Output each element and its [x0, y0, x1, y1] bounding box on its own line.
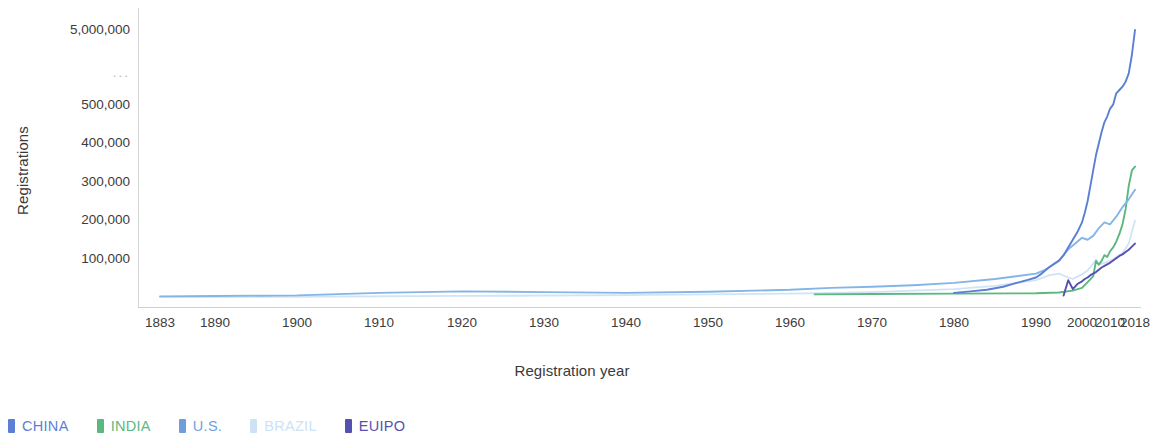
x-tick-label: 1900: [282, 316, 312, 330]
x-tick-label: 1960: [775, 316, 805, 330]
legend-item-china[interactable]: CHINA: [8, 418, 69, 434]
x-tick-label: 1940: [611, 316, 641, 330]
legend-label: INDIA: [111, 418, 151, 434]
series-line-china: [954, 30, 1135, 293]
x-tick-label: 1910: [364, 316, 394, 330]
legend-label: BRAZIL: [264, 418, 317, 434]
y-tick-label: 200,000: [30, 213, 130, 227]
x-tick-label: 1883: [145, 316, 175, 330]
x-tick-label: 1890: [200, 316, 230, 330]
legend-item-euipo[interactable]: EUIPO: [345, 418, 406, 434]
x-tick-label: 1930: [529, 316, 559, 330]
x-tick-label: 2000: [1067, 316, 1097, 330]
legend-label: EUIPO: [359, 418, 406, 434]
legend-label: CHINA: [22, 418, 69, 434]
x-tick-label: 1980: [939, 316, 969, 330]
legend-label: U.S.: [193, 418, 222, 434]
legend-swatch-icon: [179, 419, 186, 433]
legend-item-india[interactable]: INDIA: [97, 418, 151, 434]
x-tick-label: 1950: [693, 316, 723, 330]
chart-legend: CHINAINDIAU.S.BRAZILEUIPO: [8, 418, 433, 434]
x-axis-title: Registration year: [0, 362, 1144, 379]
legend-swatch-icon: [97, 419, 104, 433]
x-tick-label: 1920: [447, 316, 477, 330]
x-tick-label: 1990: [1021, 316, 1051, 330]
series-line-us: [160, 190, 1135, 297]
y-tick-label: 300,000: [30, 175, 130, 189]
y-tick-label: 5,000,000: [30, 23, 130, 37]
y-tick-label: 400,000: [30, 136, 130, 150]
legend-swatch-icon: [345, 419, 352, 433]
series-canvas: [138, 8, 1141, 311]
x-tick-label: 2018: [1120, 316, 1150, 330]
series-line-india: [815, 167, 1135, 295]
series-line-brazil: [160, 221, 1135, 298]
y-axis-ticks: 5,000,000...500,000400,000300,000200,000…: [20, 0, 130, 310]
legend-swatch-icon: [8, 419, 15, 433]
y-tick-label: 100,000: [30, 252, 130, 266]
legend-item-brazil[interactable]: BRAZIL: [250, 418, 317, 434]
legend-swatch-icon: [250, 419, 257, 433]
plot-area: [138, 8, 1141, 311]
x-tick-label: 1970: [857, 316, 887, 330]
legend-item-us[interactable]: U.S.: [179, 418, 222, 434]
y-tick-label: ...: [30, 66, 130, 80]
y-tick-label: 500,000: [30, 98, 130, 112]
